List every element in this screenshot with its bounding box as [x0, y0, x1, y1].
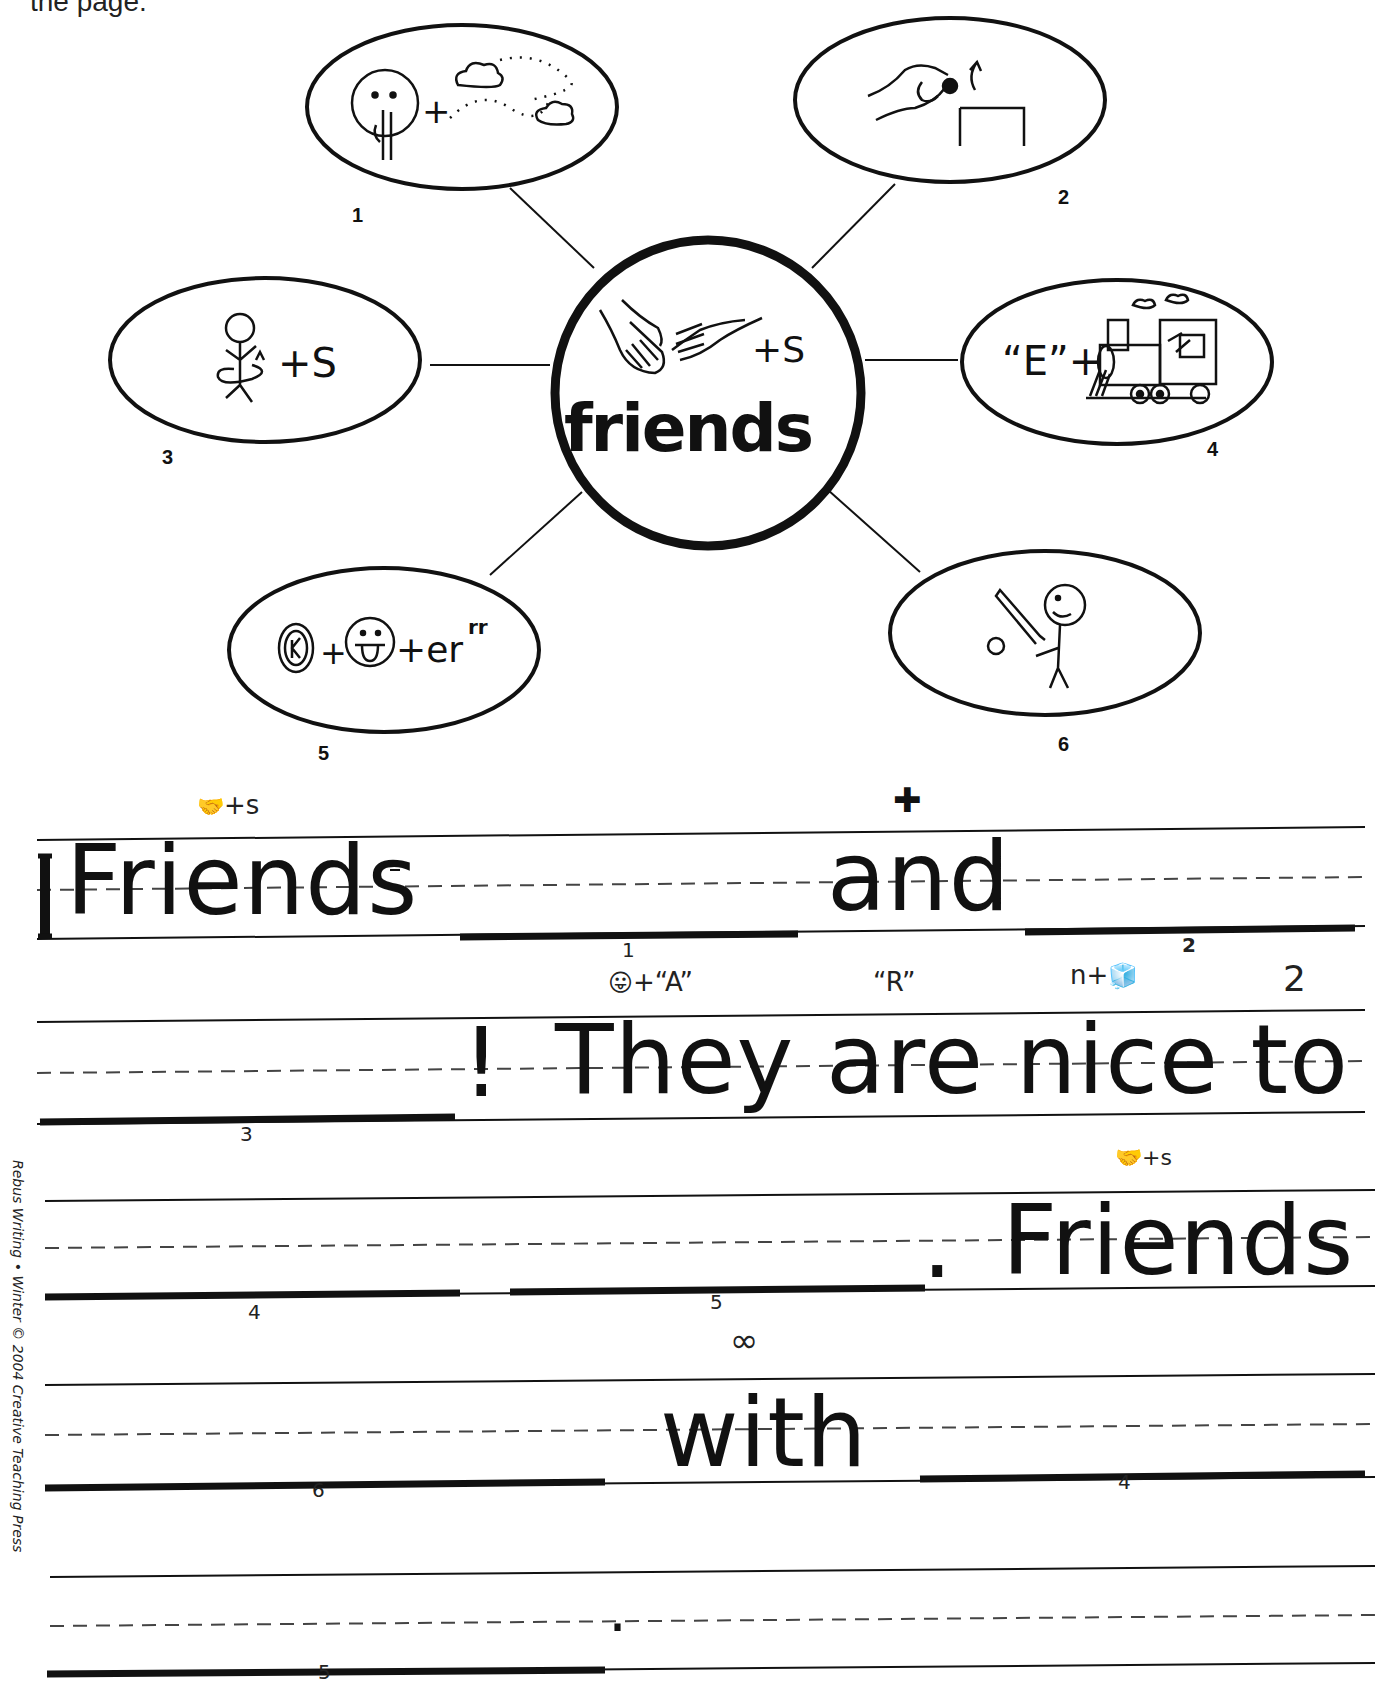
- blank-6: [45, 1482, 605, 1488]
- period-line5: .: [608, 1580, 628, 1640]
- center-word: friends: [548, 390, 828, 467]
- svg-text:+S: +S: [752, 329, 805, 370]
- word-with: with: [660, 1385, 868, 1481]
- rebus-ice: n+🧊: [1070, 960, 1138, 990]
- blank-1: [460, 934, 798, 937]
- node-number-6: 6: [1058, 733, 1069, 756]
- period-line3: .: [922, 1196, 954, 1292]
- rebus-friends-1: 🤝+s: [197, 790, 259, 820]
- shaking-hands-icon: 🤝: [197, 794, 224, 819]
- blank-number-3: 3: [240, 1122, 253, 1146]
- stick-figure-turning-icon: [218, 314, 264, 402]
- tongue-face-icon: [346, 618, 394, 666]
- blank-number-5b: 5: [318, 1660, 331, 1684]
- node-number-4: 4: [1207, 438, 1218, 461]
- shaking-hands-icon: [600, 300, 762, 373]
- blank-number-5: 5: [710, 1290, 723, 1314]
- exclaim: !: [462, 1015, 501, 1111]
- clouds-wind-icon: [450, 58, 573, 125]
- shaking-hands-icon: 🤝: [1115, 1145, 1142, 1170]
- footer-credit: Rebus Writing • Winter © 2004 Creative T…: [10, 1160, 26, 1552]
- k-circle-icon: [279, 624, 313, 672]
- node-ellipse-5: [229, 568, 539, 732]
- batter-stick-figure-icon: [988, 585, 1085, 688]
- node-ellipse-2: [795, 18, 1105, 182]
- tongue-face-icon: 😛: [608, 969, 633, 997]
- blank-number-1: 1: [622, 938, 635, 962]
- cross-mark: ✚: [893, 780, 922, 820]
- rebus-r: “R”: [873, 967, 916, 997]
- svg-text:+: +: [320, 634, 347, 672]
- train-icon: [1086, 295, 1216, 403]
- rebus-two: 2: [1283, 958, 1306, 999]
- blank-number-6: 6: [312, 1478, 325, 1502]
- blank-2: [1025, 928, 1355, 932]
- rebus-friends-3: 🤝+s: [1115, 1145, 1172, 1170]
- hand-dropping-into-box-icon: [868, 62, 1024, 146]
- svg-text:+: +: [422, 91, 451, 131]
- blank-number-2: 2: [1182, 933, 1196, 957]
- line2-text: They are nice to: [555, 1012, 1349, 1108]
- rebus-tongue-a: 😛+“A”: [608, 967, 693, 997]
- svg-text:+S: +S: [278, 340, 337, 386]
- svg-text:rr: rr: [468, 615, 488, 639]
- node-number-2: 2: [1058, 186, 1069, 209]
- node-ellipse-6: [890, 551, 1200, 715]
- blank-4: [45, 1293, 460, 1297]
- node-number-3: 3: [162, 446, 173, 469]
- node-ellipse-3: [110, 278, 420, 442]
- shush-face-icon: [352, 70, 418, 160]
- word-web-diagram: + +S “E”+: [0, 0, 1385, 760]
- node-number-1: 1: [352, 204, 363, 227]
- word-friends-line1: Friends: [66, 833, 418, 929]
- svg-text:“E”+: “E”+: [1002, 338, 1102, 384]
- svg-text:+er: +er: [396, 629, 463, 670]
- word-and: and: [827, 829, 1011, 925]
- rebus-infinity: ∞: [730, 1320, 758, 1360]
- blank-number-4b: 4: [1118, 1470, 1131, 1494]
- word-friends-line3: Friends: [1002, 1193, 1354, 1289]
- ice-cube-icon: 🧊: [1108, 962, 1138, 990]
- blank-4b: [920, 1474, 1365, 1479]
- blank-number-4: 4: [248, 1300, 261, 1324]
